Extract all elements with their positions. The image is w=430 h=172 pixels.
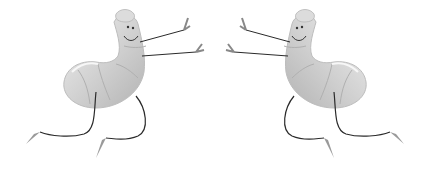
left-shrimp-figure bbox=[26, 10, 204, 159]
right-shrimp-figure bbox=[226, 10, 404, 159]
illustration-scene: Two mirrored cartoon shrimp characters d… bbox=[0, 0, 430, 172]
shrimp-illustration bbox=[0, 0, 430, 172]
